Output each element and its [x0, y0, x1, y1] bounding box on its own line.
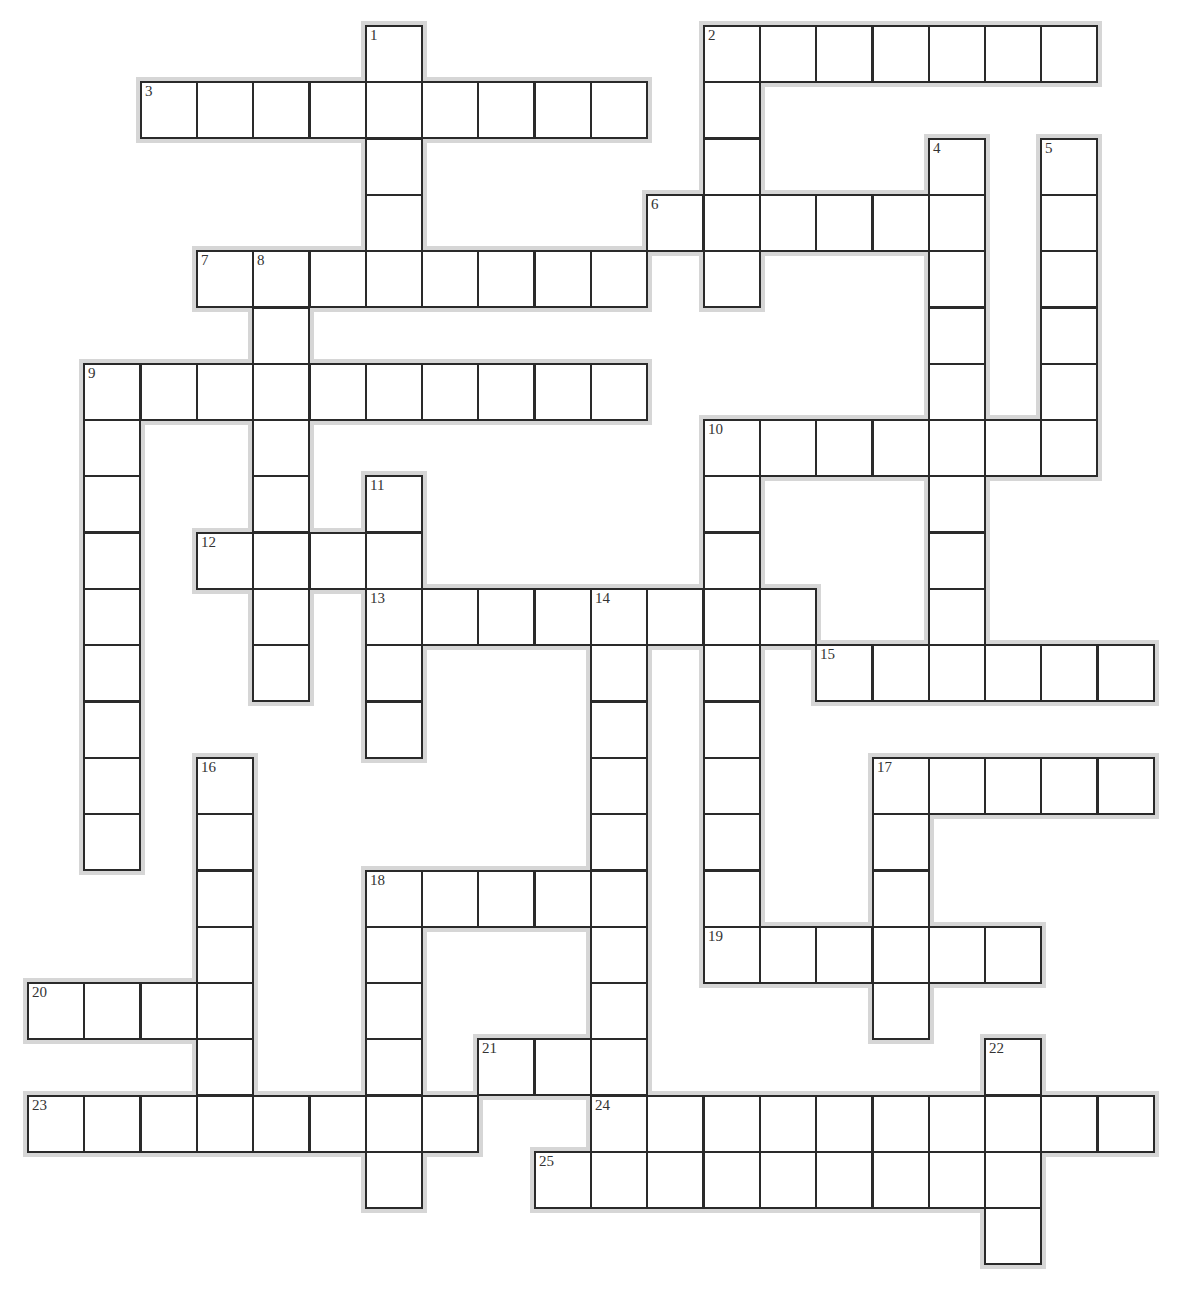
- crossword-cell[interactable]: [872, 1151, 930, 1209]
- crossword-cell[interactable]: [928, 194, 986, 252]
- crossword-cell[interactable]: [309, 250, 367, 308]
- crossword-cell[interactable]: [872, 926, 930, 984]
- crossword-cell[interactable]: [872, 813, 930, 871]
- crossword-cell[interactable]: [140, 363, 198, 421]
- crossword-cell[interactable]: [421, 588, 479, 646]
- crossword-cell[interactable]: 2: [703, 25, 761, 83]
- crossword-cell[interactable]: [83, 419, 141, 477]
- crossword-cell[interactable]: [534, 81, 592, 139]
- crossword-cell[interactable]: [83, 588, 141, 646]
- crossword-cell[interactable]: [421, 81, 479, 139]
- crossword-cell[interactable]: [759, 588, 817, 646]
- crossword-cell[interactable]: [252, 644, 310, 702]
- crossword-cell[interactable]: [928, 307, 986, 365]
- crossword-cell[interactable]: [984, 1151, 1042, 1209]
- crossword-cell[interactable]: [252, 532, 310, 590]
- crossword-cell[interactable]: [590, 644, 648, 702]
- crossword-cell[interactable]: [421, 250, 479, 308]
- crossword-cell[interactable]: 19: [703, 926, 761, 984]
- crossword-cell[interactable]: [252, 588, 310, 646]
- crossword-cell[interactable]: [872, 870, 930, 928]
- crossword-cell[interactable]: [815, 1095, 873, 1153]
- crossword-cell[interactable]: [83, 532, 141, 590]
- crossword-cell[interactable]: [984, 757, 1042, 815]
- crossword-cell[interactable]: [759, 1095, 817, 1153]
- crossword-cell[interactable]: [140, 982, 198, 1040]
- crossword-cell[interactable]: [984, 926, 1042, 984]
- crossword-cell[interactable]: 4: [928, 138, 986, 196]
- crossword-cell[interactable]: [590, 926, 648, 984]
- crossword-cell[interactable]: [872, 25, 930, 83]
- crossword-cell[interactable]: 24: [590, 1095, 648, 1153]
- crossword-cell[interactable]: 10: [703, 419, 761, 477]
- crossword-cell[interactable]: [365, 1151, 423, 1209]
- crossword-cell[interactable]: [196, 1038, 254, 1096]
- crossword-cell[interactable]: [703, 757, 761, 815]
- crossword-cell[interactable]: [365, 1095, 423, 1153]
- crossword-cell[interactable]: [928, 25, 986, 83]
- crossword-cell[interactable]: [365, 532, 423, 590]
- crossword-cell[interactable]: [309, 1095, 367, 1153]
- crossword-cell[interactable]: [83, 1095, 141, 1153]
- crossword-cell[interactable]: [1040, 194, 1098, 252]
- crossword-cell[interactable]: 13: [365, 588, 423, 646]
- crossword-cell[interactable]: [252, 363, 310, 421]
- crossword-cell[interactable]: [984, 1207, 1042, 1265]
- crossword-cell[interactable]: [928, 588, 986, 646]
- crossword-cell[interactable]: [1040, 363, 1098, 421]
- crossword-cell[interactable]: 5: [1040, 138, 1098, 196]
- crossword-cell[interactable]: [252, 81, 310, 139]
- crossword-cell[interactable]: [984, 419, 1042, 477]
- crossword-cell[interactable]: [646, 588, 704, 646]
- crossword-cell[interactable]: [759, 194, 817, 252]
- crossword-cell[interactable]: [815, 194, 873, 252]
- crossword-cell[interactable]: [83, 644, 141, 702]
- crossword-cell[interactable]: [703, 250, 761, 308]
- crossword-cell[interactable]: [759, 25, 817, 83]
- crossword-cell[interactable]: [421, 1095, 479, 1153]
- crossword-cell[interactable]: [365, 1038, 423, 1096]
- crossword-cell[interactable]: 25: [534, 1151, 592, 1209]
- crossword-cell[interactable]: [140, 1095, 198, 1153]
- crossword-cell[interactable]: [815, 926, 873, 984]
- crossword-cell[interactable]: [590, 1151, 648, 1209]
- crossword-cell[interactable]: [477, 870, 535, 928]
- crossword-cell[interactable]: [534, 363, 592, 421]
- crossword-cell[interactable]: [252, 1095, 310, 1153]
- crossword-cell[interactable]: 7: [196, 250, 254, 308]
- crossword-cell[interactable]: [196, 81, 254, 139]
- crossword-cell[interactable]: [1040, 1095, 1098, 1153]
- crossword-cell[interactable]: [872, 419, 930, 477]
- crossword-cell[interactable]: [196, 813, 254, 871]
- crossword-cell[interactable]: [815, 1151, 873, 1209]
- crossword-cell[interactable]: 17: [872, 757, 930, 815]
- crossword-cell[interactable]: [534, 870, 592, 928]
- crossword-cell[interactable]: [365, 363, 423, 421]
- crossword-cell[interactable]: [984, 644, 1042, 702]
- crossword-cell[interactable]: [815, 419, 873, 477]
- crossword-cell[interactable]: [703, 138, 761, 196]
- crossword-cell[interactable]: [872, 982, 930, 1040]
- crossword-cell[interactable]: [83, 475, 141, 533]
- crossword-cell[interactable]: [590, 813, 648, 871]
- crossword-cell[interactable]: [872, 644, 930, 702]
- crossword-cell[interactable]: [196, 363, 254, 421]
- crossword-cell[interactable]: 18: [365, 870, 423, 928]
- crossword-cell[interactable]: [196, 1095, 254, 1153]
- crossword-cell[interactable]: [196, 982, 254, 1040]
- crossword-cell[interactable]: [759, 1151, 817, 1209]
- crossword-cell[interactable]: [984, 1095, 1042, 1153]
- crossword-cell[interactable]: 6: [646, 194, 704, 252]
- crossword-cell[interactable]: [1097, 1095, 1155, 1153]
- crossword-cell[interactable]: [590, 870, 648, 928]
- crossword-cell[interactable]: [1097, 644, 1155, 702]
- crossword-cell[interactable]: [365, 701, 423, 759]
- crossword-cell[interactable]: [590, 81, 648, 139]
- crossword-cell[interactable]: [928, 1095, 986, 1153]
- crossword-cell[interactable]: [365, 644, 423, 702]
- crossword-cell[interactable]: [703, 1151, 761, 1209]
- crossword-cell[interactable]: [421, 870, 479, 928]
- crossword-cell[interactable]: [534, 250, 592, 308]
- crossword-cell[interactable]: 14: [590, 588, 648, 646]
- crossword-cell[interactable]: [365, 138, 423, 196]
